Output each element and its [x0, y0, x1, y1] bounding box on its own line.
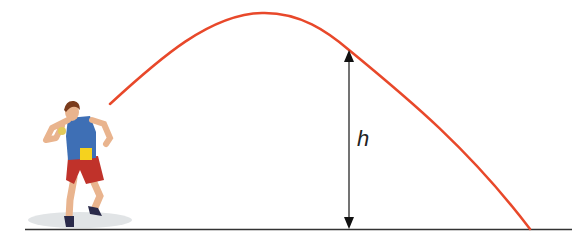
- trajectory-curve: [110, 13, 530, 229]
- diagram-canvas: [0, 0, 577, 237]
- athlete-shadow: [28, 212, 132, 228]
- arrowhead-down-icon: [344, 217, 354, 229]
- athlete-figure: [46, 101, 110, 227]
- height-arrow: [344, 50, 354, 229]
- height-label: h: [357, 126, 369, 152]
